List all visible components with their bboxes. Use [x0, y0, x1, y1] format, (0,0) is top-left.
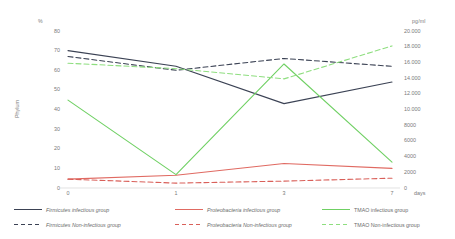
chart-legend: Firmicutes infectious groupFirmicutes No…: [0, 202, 455, 239]
legend-label: TMAO Non-infectious group: [354, 222, 420, 228]
legend-item[interactable]: Proteobacteria Non-infectious group: [175, 217, 325, 232]
legend-swatch-icon: [322, 207, 350, 213]
legend-label: Proteobacteria infectious group: [207, 207, 280, 213]
series-line: [68, 64, 392, 175]
legend-item[interactable]: Firmicutes Non-infectious group: [14, 217, 164, 232]
chart-container: % Phylum pg/ml days 01020304050607080 02…: [0, 0, 455, 239]
legend-swatch-icon: [14, 207, 42, 213]
legend-column: Firmicutes infectious groupFirmicutes No…: [14, 202, 164, 239]
legend-label: Firmicutes infectious group: [46, 207, 109, 213]
legend-column: Proteobacteria infectious groupProteobac…: [175, 202, 325, 239]
legend-label: TMAO infectious group: [354, 207, 408, 213]
series-line: [68, 178, 392, 183]
legend-swatch-icon: [175, 207, 203, 213]
legend-label: Firmicutes Non-infectious group: [46, 222, 121, 228]
legend-label: Proteobacteria Non-infectious group: [207, 222, 292, 228]
legend-swatch-icon: [175, 222, 203, 228]
series-line: [68, 163, 392, 179]
legend-item[interactable]: TMAO infectious group: [322, 202, 455, 217]
legend-item[interactable]: Firmicutes infectious group: [14, 202, 164, 217]
series-line: [68, 51, 392, 104]
legend-item[interactable]: TMAO Non-infectious group: [322, 217, 455, 232]
legend-column: TMAO infectious groupTMAO Non-infectious…: [322, 202, 455, 239]
series-line: [68, 57, 392, 71]
legend-swatch-icon: [322, 222, 350, 228]
legend-item[interactable]: Proteobacteria infectious group: [175, 202, 325, 217]
legend-swatch-icon: [14, 222, 42, 228]
